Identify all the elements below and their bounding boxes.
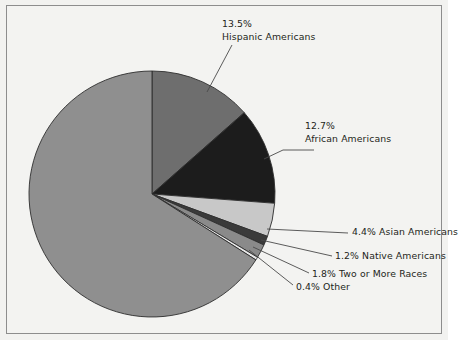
label-hispanic-americans: 13.5% Hispanic Americans — [222, 18, 315, 43]
label-asian-americans: 4.4% Asian Americans — [352, 226, 458, 239]
leader-line-asian — [267, 229, 348, 233]
label-african-americans: 12.7% African Americans — [305, 120, 391, 145]
label-african-percent: 12.7% — [305, 120, 391, 133]
leader-line-native — [261, 240, 332, 256]
label-african-name: African Americans — [305, 133, 391, 146]
label-asian-percent: 4.4% — [352, 226, 376, 237]
leader-line-hispanic — [207, 45, 232, 92]
label-native-percent: 1.2% — [335, 250, 359, 261]
label-hispanic-percent: 13.5% — [222, 18, 315, 31]
label-hispanic-name: Hispanic Americans — [222, 31, 315, 44]
label-other: 0.4% Other — [296, 281, 350, 294]
label-two-or-more-races: 1.8% Two or More Races — [312, 268, 427, 281]
label-other-percent: 0.4% — [296, 281, 320, 292]
label-two-percent: 1.8% — [312, 268, 336, 279]
label-other-name: Other — [323, 281, 350, 292]
label-native-americans: 1.2% Native Americans — [335, 250, 446, 263]
label-native-name: Native Americans — [362, 250, 446, 261]
leader-line-african — [264, 150, 314, 159]
label-asian-name: Asian Americans — [379, 226, 458, 237]
label-two-name: Two or More Races — [339, 268, 427, 279]
